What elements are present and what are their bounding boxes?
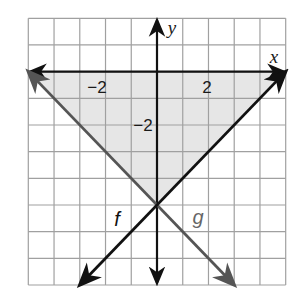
x-axis-label: x [269, 46, 279, 67]
x-tick-label-pos2: 2 [202, 78, 211, 97]
y-tick-label-neg2: −2 [133, 116, 152, 135]
f-label: f [114, 208, 122, 230]
coordinate-graph: −2 2 −2 x y f g [0, 0, 308, 295]
y-axis-label: y [166, 17, 177, 38]
g-label: g [192, 206, 203, 228]
x-tick-label-neg2: −2 [87, 78, 106, 97]
